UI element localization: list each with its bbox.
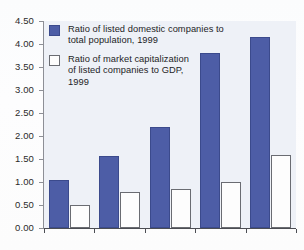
- bar-group: [250, 21, 291, 228]
- legend-label-white: Ratio of market capitalization of listed…: [68, 54, 189, 88]
- y-axis-tick-label: 1.00: [15, 176, 34, 188]
- y-axis-tick-label: 0.50: [15, 199, 34, 211]
- y-axis-tick: 2.00: [0, 130, 44, 142]
- legend-swatch-blue-icon: [49, 25, 60, 36]
- bar-market-capitalization: [120, 192, 140, 228]
- y-axis-tick-label: 4.50: [15, 15, 34, 27]
- y-axis-tick-label: 3.50: [15, 61, 34, 73]
- y-axis-tick: 1.50: [0, 153, 44, 165]
- y-axis-tick-label: 1.50: [15, 153, 34, 165]
- x-axis-tick-mark: [246, 229, 247, 233]
- y-axis-tick: 3.50: [0, 61, 44, 73]
- bar-market-capitalization: [271, 155, 291, 228]
- x-axis-tick-mark: [44, 229, 45, 233]
- bar-listed-domestic-companies: [49, 180, 69, 228]
- x-axis-tick-mark: [94, 229, 95, 233]
- x-axis-tick-mark: [195, 229, 196, 233]
- y-axis-tick-label: 2.50: [15, 107, 34, 119]
- y-axis-tick-label: 0.00: [15, 222, 34, 234]
- bar-market-capitalization: [221, 182, 241, 228]
- legend-item-market-capitalization: Ratio of market capitalization of listed…: [49, 54, 249, 88]
- legend-label-blue: Ratio of listed domestic companies to to…: [68, 24, 224, 47]
- bar-market-capitalization: [70, 205, 90, 228]
- bar-listed-domestic-companies: [250, 37, 270, 228]
- bar-listed-domestic-companies: [150, 127, 170, 228]
- y-axis-tick-label: 2.00: [15, 130, 34, 142]
- y-axis-tick: 0.50: [0, 199, 44, 211]
- x-axis-tick-mark: [145, 229, 146, 233]
- x-axis-line: [43, 228, 296, 229]
- chart-legend: Ratio of listed domestic companies to to…: [49, 24, 249, 95]
- bar-listed-domestic-companies: [99, 156, 119, 228]
- y-axis-tick: 4.50: [0, 15, 44, 27]
- legend-swatch-white-icon: [49, 55, 60, 66]
- y-axis-tick-label: 4.00: [15, 38, 34, 50]
- y-axis-tick: 4.00: [0, 38, 44, 50]
- bar-chart: 4.504.003.503.002.502.001.501.000.500.00…: [0, 0, 304, 250]
- legend-item-listed-domestic-companies: Ratio of listed domestic companies to to…: [49, 24, 249, 47]
- bar-market-capitalization: [171, 189, 191, 228]
- y-axis-tick: 2.50: [0, 107, 44, 119]
- y-axis-tick: 3.00: [0, 84, 44, 96]
- y-axis-tick: 0.00: [0, 222, 44, 234]
- x-axis-tick-mark: [296, 229, 297, 233]
- y-axis-tick-label: 3.00: [15, 84, 34, 96]
- y-axis-tick: 1.00: [0, 176, 44, 188]
